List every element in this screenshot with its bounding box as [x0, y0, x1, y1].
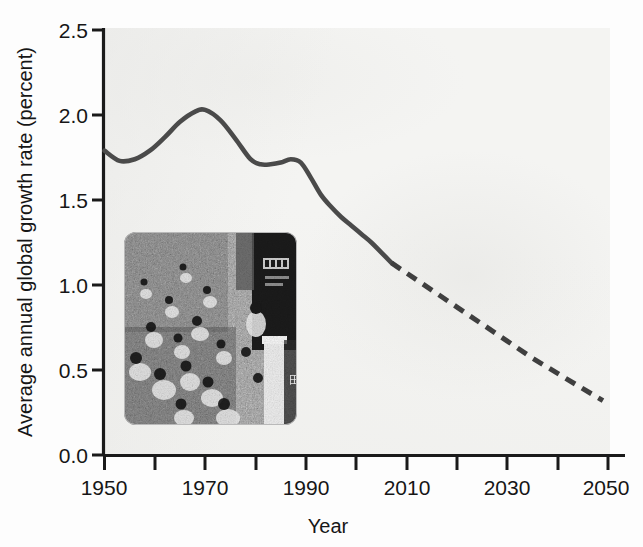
chart-svg: 2.5 2.0 1.5 1.0 0.5 0.0 1950 1970 1990: [0, 0, 643, 547]
x-tick-label: 1970: [182, 476, 229, 499]
y-axis-tick-labels: 2.5 2.0 1.5 1.0 0.5 0.0: [59, 19, 88, 467]
x-tick-label: 1990: [283, 476, 330, 499]
x-tick-label: 2010: [384, 476, 431, 499]
y-tick-label: 0.0: [59, 444, 88, 467]
x-tick-label: 2050: [583, 476, 630, 499]
y-tick-label: 2.5: [59, 19, 88, 42]
y-tick-label: 0.5: [59, 359, 88, 382]
x-axis-title: Year: [308, 515, 349, 537]
chart-figure: 田 2.5 2.0 1: [0, 0, 643, 547]
x-axis-tick-labels: 1950 1970 1990 2010 2030 2050: [81, 476, 630, 499]
y-axis-ticks: [92, 30, 103, 455]
x-tick-label: 1950: [81, 476, 128, 499]
x-tick-label: 2030: [484, 476, 531, 499]
series-line-estimated: [105, 109, 392, 263]
y-axis-title: Average annual global growth rate (perce…: [14, 47, 36, 437]
y-tick-label: 1.5: [59, 189, 88, 212]
y-tick-label: 1.0: [59, 274, 88, 297]
series-line-projected: [391, 263, 602, 401]
x-axis-ticks: [105, 455, 609, 470]
y-tick-label: 2.0: [59, 104, 88, 127]
